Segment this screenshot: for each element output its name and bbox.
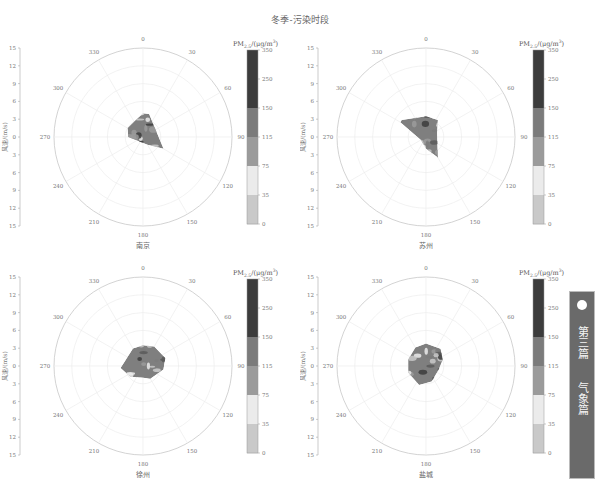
colorbar-band xyxy=(533,395,544,424)
angle-tick-label: 270 xyxy=(40,134,51,140)
angle-tick-label: 60 xyxy=(224,314,231,320)
colorbar-tick-label: 0 xyxy=(548,450,552,456)
angle-tick-label: 90 xyxy=(521,134,528,140)
y-tick-label: 6 xyxy=(13,170,17,176)
chapter-label: 第三篇 xyxy=(570,326,594,362)
colorbar-band xyxy=(533,50,544,79)
y-axis-label: 风速/(m/s) xyxy=(300,351,307,381)
polar-spoke xyxy=(426,366,503,411)
colorbar-band xyxy=(247,137,258,166)
angle-tick-label: 210 xyxy=(372,219,383,225)
section-label: 气象篇 xyxy=(570,382,594,418)
colorbar-band xyxy=(247,424,258,453)
colorbar-tick-label: 0 xyxy=(262,450,266,456)
polar-spoke xyxy=(66,137,143,182)
colorbar-band xyxy=(247,195,258,224)
polar-spoke xyxy=(99,137,144,214)
angle-tick-label: 120 xyxy=(223,412,234,418)
angle-tick-label: 270 xyxy=(40,363,51,369)
colorbar-tick-label: 115 xyxy=(262,134,273,140)
colorbar-tick-label: 150 xyxy=(262,105,273,111)
angle-tick-label: 30 xyxy=(472,278,479,284)
colorbar-tick-label: 35 xyxy=(262,192,269,198)
angle-tick-label: 240 xyxy=(336,183,347,189)
y-tick-label: 0 xyxy=(13,134,17,140)
y-tick-label: 15 xyxy=(307,45,314,51)
angle-tick-label: 270 xyxy=(323,134,334,140)
y-tick-label: 12 xyxy=(9,292,16,298)
angle-tick-label: 300 xyxy=(53,85,64,91)
colorbar-tick-label: 250 xyxy=(548,76,559,82)
polar-plot-panel: 151296303691215风速/(m/s)03060901201501802… xyxy=(300,30,600,258)
angle-tick-label: 180 xyxy=(138,461,149,467)
polar-plot-panel: 151296303691215风速/(m/s)03060901201501802… xyxy=(0,258,300,486)
polar-spoke xyxy=(382,137,427,214)
y-axis-label: 风速/(m/s) xyxy=(1,351,9,381)
colorbar-band xyxy=(533,166,544,195)
y-tick-label: 9 xyxy=(13,310,17,316)
angle-tick-label: 180 xyxy=(138,232,149,238)
y-tick-label: 3 xyxy=(13,116,17,122)
y-tick-label: 15 xyxy=(307,274,314,280)
colorbar-band xyxy=(247,50,258,79)
colorbar-band xyxy=(247,166,258,195)
angle-tick-label: 270 xyxy=(323,363,334,369)
y-tick-label: 9 xyxy=(13,416,17,422)
angle-tick-label: 0 xyxy=(424,36,428,42)
colorbar-tick-label: 75 xyxy=(262,392,269,398)
polar-spoke xyxy=(143,137,188,214)
y-tick-label: 15 xyxy=(307,452,314,458)
angle-tick-label: 90 xyxy=(521,363,528,369)
y-axis-label: 风速/(m/s) xyxy=(1,122,9,152)
y-tick-label: 3 xyxy=(13,152,17,158)
angle-tick-label: 180 xyxy=(421,461,432,467)
angle-tick-label: 30 xyxy=(472,49,479,55)
angle-tick-label: 210 xyxy=(89,219,100,225)
y-tick-label: 12 xyxy=(307,434,314,440)
y-tick-label: 6 xyxy=(311,170,315,176)
y-tick-label: 9 xyxy=(311,416,315,422)
polar-plot: 151296303691215风速/(m/s)03060901201501802… xyxy=(300,30,600,258)
y-tick-label: 12 xyxy=(9,63,16,69)
y-tick-label: 9 xyxy=(311,187,315,193)
y-tick-label: 0 xyxy=(311,134,315,140)
angle-tick-label: 120 xyxy=(506,183,517,189)
colorbar-band xyxy=(533,337,544,366)
city-label: 南京 xyxy=(113,240,173,250)
angle-tick-label: 30 xyxy=(189,49,196,55)
y-tick-label: 9 xyxy=(311,81,315,87)
y-tick-label: 12 xyxy=(9,434,16,440)
polar-plot-panel: 151296303691215风速/(m/s)03060901201501802… xyxy=(300,258,600,486)
y-tick-label: 0 xyxy=(311,363,315,369)
angle-tick-label: 120 xyxy=(223,183,234,189)
angle-tick-label: 180 xyxy=(421,232,432,238)
y-tick-label: 3 xyxy=(311,345,315,351)
colorbar-tick-label: 35 xyxy=(262,421,269,427)
figure-title: 冬季-污染时段 xyxy=(0,13,600,26)
colorbar-band xyxy=(533,79,544,108)
chapter-text: 第三篇 xyxy=(576,326,589,359)
y-tick-label: 12 xyxy=(9,205,16,211)
colorbar-tick-label: 75 xyxy=(262,163,269,169)
colorbar-tick-label: 250 xyxy=(262,305,273,311)
angle-tick-label: 240 xyxy=(53,183,64,189)
angle-tick-label: 210 xyxy=(372,448,383,454)
section-text: 气象篇 xyxy=(576,382,589,415)
angle-tick-label: 210 xyxy=(89,448,100,454)
colorbar-title: PM2.5/(μg/m3) xyxy=(519,39,564,49)
colorbar-tick-label: 150 xyxy=(548,105,559,111)
colorbar-band xyxy=(247,395,258,424)
y-tick-label: 12 xyxy=(307,205,314,211)
colorbar-tick-label: 115 xyxy=(548,363,559,369)
y-tick-label: 3 xyxy=(311,381,315,387)
angle-tick-label: 300 xyxy=(336,314,347,320)
angle-tick-label: 150 xyxy=(187,448,198,454)
chapter-side-tab: 第三篇 气象篇 xyxy=(569,291,595,479)
colorbar-tick-label: 150 xyxy=(262,334,273,340)
colorbar-tick-label: 115 xyxy=(548,134,559,140)
angle-tick-label: 60 xyxy=(507,85,514,91)
colorbar-band xyxy=(247,337,258,366)
angle-tick-label: 330 xyxy=(372,278,383,284)
colorbar-tick-label: 75 xyxy=(548,163,555,169)
colorbar-title: PM2.5/(μg/m3) xyxy=(519,268,564,278)
